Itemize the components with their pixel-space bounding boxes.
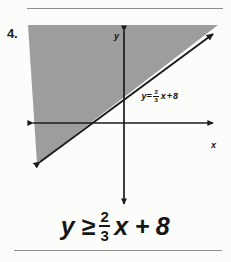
line-equation-intercept: 8 [173,92,178,101]
answer-relation: ≥ [81,214,95,239]
shaded-region [28,25,218,164]
x-axis-label: x [211,140,216,150]
y-axis-label: y [114,31,119,41]
graph-figure: y x [0,14,231,210]
answer-denominator: 3 [99,228,110,243]
answer-plus: + [135,214,150,239]
line-equation-denominator: 3 [154,97,159,103]
line-equation-lhs: y= [142,92,152,101]
graph-svg [0,14,231,210]
answer-inequality: y ≥ 2 3 x + 8 [0,209,231,243]
divider-bottom [14,250,222,251]
line-equation-label: y= 2 3 x + 8 [141,89,179,103]
line-equation-variable: x [161,92,166,101]
answer-x-variable: x [114,214,128,239]
worksheet-page: 4. y x y= 2 [0,0,231,262]
line-equation-plus: + [167,92,172,101]
answer-numerator: 2 [99,209,110,224]
line-equation-fraction: 2 3 [153,89,159,103]
answer-variable: y [61,214,75,239]
answer-fraction: 2 3 [99,209,110,243]
answer-intercept: 8 [156,214,170,239]
divider-top [27,8,223,9]
line-equation-numerator: 2 [154,89,159,95]
